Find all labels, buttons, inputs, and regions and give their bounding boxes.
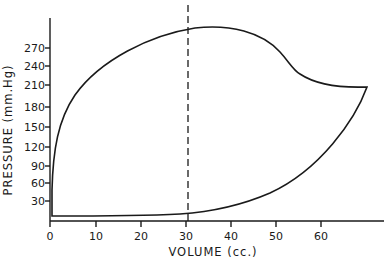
pressure-volume-chart: 0 10 20 30 40 50 60 30 60 90 120 150 180… bbox=[0, 0, 386, 262]
y-axis-title: PRESSURE (mm.Hg) bbox=[1, 64, 15, 195]
x-tick-labels: 0 10 20 30 40 50 60 bbox=[47, 230, 329, 243]
x-tick-label: 30 bbox=[179, 230, 193, 243]
y-tick-label: 90 bbox=[31, 160, 45, 173]
x-tick-label: 20 bbox=[134, 230, 148, 243]
y-tick-label: 60 bbox=[31, 177, 45, 190]
y-ticks bbox=[45, 48, 50, 201]
x-tick-label: 40 bbox=[224, 230, 238, 243]
x-axis-title: VOLUME (cc.) bbox=[168, 245, 257, 259]
y-tick-label: 240 bbox=[24, 60, 45, 73]
pressure-volume-loop bbox=[52, 27, 367, 216]
y-tick-labels: 30 60 90 120 150 180 210 240 270 bbox=[24, 42, 45, 208]
y-tick-label: 210 bbox=[24, 79, 45, 92]
y-tick-label: 30 bbox=[31, 195, 45, 208]
x-tick-label: 10 bbox=[89, 230, 103, 243]
y-tick-label: 270 bbox=[24, 42, 45, 55]
y-tick-label: 180 bbox=[24, 101, 45, 114]
y-tick-label: 120 bbox=[24, 141, 45, 154]
x-ticks bbox=[50, 221, 321, 227]
x-tick-label: 60 bbox=[314, 230, 328, 243]
y-tick-label: 150 bbox=[24, 121, 45, 134]
x-tick-label: 50 bbox=[269, 230, 283, 243]
x-tick-label: 0 bbox=[47, 230, 54, 243]
